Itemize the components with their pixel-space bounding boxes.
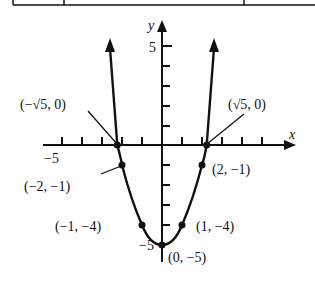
x-tick-neg5: −5 — [44, 151, 59, 166]
curve-arrow-left-icon — [105, 38, 115, 52]
y-tick-5: 5 — [149, 40, 156, 55]
point-label-2-neg1: (2, −1) — [212, 162, 251, 178]
y-axis-label: y — [146, 18, 155, 33]
x-axis-label: x — [288, 127, 296, 142]
point-label-neg1-neg4: (−1, −4) — [55, 219, 101, 235]
point-label-0-neg5: (0, −5) — [168, 250, 207, 266]
parabola-figure: y x 5 −5 −5 (−√5, 0) (√5, 0) (−2, −1) (2… — [0, 0, 315, 285]
point-label-sqrt5: (√5, 0) — [228, 97, 266, 113]
y-axis-arrow-icon — [157, 20, 167, 32]
point-label-neg-sqrt5: (−√5, 0) — [20, 97, 66, 113]
point-label-neg2-neg1: (−2, −1) — [24, 179, 70, 195]
curve-arrow-right-icon — [209, 38, 219, 52]
table-fragment — [13, 0, 315, 5]
point-label-1-neg4: (1, −4) — [196, 219, 235, 235]
x-axis — [43, 137, 296, 150]
y-axis — [157, 20, 172, 262]
y-tick-neg5: −5 — [139, 238, 154, 253]
